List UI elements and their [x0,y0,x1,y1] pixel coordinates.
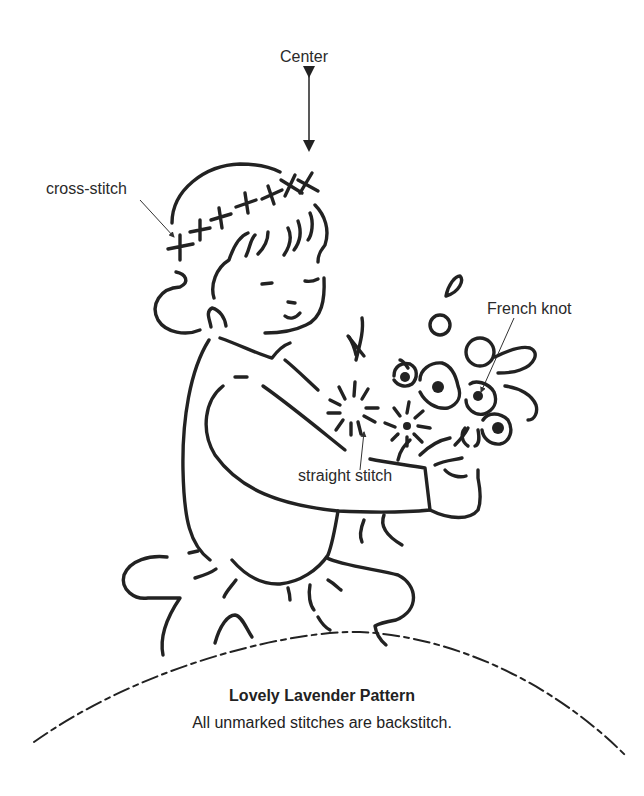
pattern-title: Lovely Lavender Pattern [0,687,644,705]
straight-stitch-burst-icon [328,382,378,435]
center-label: Center [280,48,328,66]
embroidery-pattern-illustration [0,0,644,796]
french-knot-label: French knot [487,300,571,318]
girl-body [123,340,430,655]
straight-stitch-leader [360,432,364,470]
girl-head [155,164,327,358]
pattern-subtitle: All unmarked stitches are backstitch. [0,714,644,732]
cross-stitch-label: cross-stitch [46,180,127,198]
cross-stitch-leader [140,200,174,237]
small-flower-burst-icon [385,402,430,446]
straight-stitch-label: straight stitch [298,467,392,485]
hands [398,428,480,518]
